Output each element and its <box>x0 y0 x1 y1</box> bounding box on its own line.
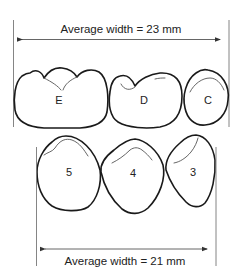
tooth-4: 4 <box>101 139 164 213</box>
top-dimension-label: Average width = 23 mm <box>61 23 182 35</box>
upper-teeth-row: E D C <box>14 68 228 128</box>
tooth-3: 3 <box>166 135 215 207</box>
bottom-dimension-label: Average width = 21 mm <box>65 255 186 267</box>
tooth-c: C <box>184 70 228 125</box>
tooth-e: E <box>14 68 108 128</box>
tooth-width-diagram: Average width = 23 mm E D C 5 <box>0 0 238 280</box>
tooth-label-d: D <box>140 94 148 106</box>
tooth-label-3: 3 <box>190 166 196 178</box>
tooth-label-e: E <box>55 94 62 106</box>
tooth-label-c: C <box>204 94 212 106</box>
lower-teeth-row: 5 4 3 <box>37 135 215 213</box>
tooth-label-4: 4 <box>130 167 136 179</box>
tooth-label-5: 5 <box>66 166 72 178</box>
tooth-5: 5 <box>37 136 100 211</box>
tooth-d: D <box>109 73 182 128</box>
